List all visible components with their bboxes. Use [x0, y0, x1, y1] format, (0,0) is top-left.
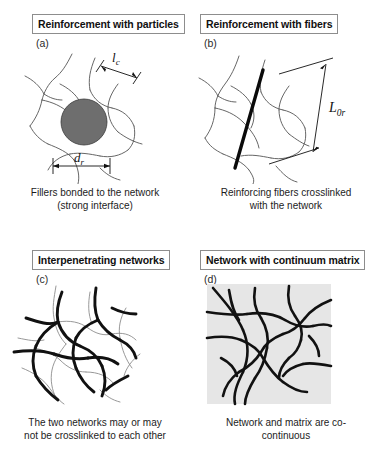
panel-c-diagram — [0, 280, 190, 412]
reinforcement-mechanisms-figure: Reinforcement with particles (a) — [0, 0, 381, 471]
panel-d-diagram — [191, 280, 381, 412]
panel-a: Reinforcement with particles (a) — [0, 0, 190, 235]
panel-c-caption-line-2: not be crosslinked to each other — [0, 429, 190, 442]
panel-b-caption: Reinforcing fibers crosslinked with the … — [191, 186, 381, 212]
panel-b-diagram: L0r — [191, 48, 381, 184]
panel-d: Network with continuum matrix (d) — [191, 236, 381, 471]
panel-a-title: Reinforcement with particles — [32, 14, 185, 34]
panel-d-title: Network with continuum matrix — [200, 250, 365, 270]
panel-a-caption-line-1: Fillers bonded to the network — [0, 186, 190, 199]
filler-particle — [61, 99, 107, 145]
panel-b-caption-line-1: Reinforcing fibers crosslinked — [191, 186, 381, 199]
panel-d-caption: Network and matrix are co- continuous — [191, 416, 381, 442]
panel-b-title: Reinforcement with fibers — [200, 14, 338, 34]
panel-c: Interpenetrating networks (c) — [0, 236, 190, 471]
panel-b: Reinforcement with fibers (b) — [191, 0, 381, 235]
panel-c-title: Interpenetrating networks — [32, 250, 170, 270]
fiber-length-label: L0r — [328, 100, 346, 118]
panel-d-caption-line-2: continuous — [191, 429, 381, 442]
panel-a-diagram: lc dr — [0, 48, 190, 184]
panel-a-caption-line-2: (strong interface) — [0, 199, 190, 212]
network-thick-c — [14, 288, 136, 400]
panel-d-caption-line-1: Network and matrix are co- — [191, 416, 381, 429]
chain-length-label: lc — [112, 50, 120, 67]
panel-a-caption: Fillers bonded to the network (strong in… — [0, 186, 190, 212]
network-chains-b — [199, 56, 309, 184]
panel-c-caption-line-1: The two networks may or may — [0, 416, 190, 429]
panel-c-caption: The two networks may or may not be cross… — [0, 416, 190, 442]
panel-b-caption-line-2: with the network — [191, 199, 381, 212]
particle-diameter-label: dr — [74, 150, 85, 167]
